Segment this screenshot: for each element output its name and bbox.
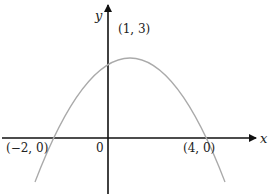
x-axis-label: x <box>260 131 268 146</box>
right-root-label: (4, 0) <box>183 141 215 155</box>
origin-label: 0 <box>96 141 104 155</box>
parabola-curve <box>35 58 225 182</box>
vertex-label: (1, 3) <box>118 22 150 36</box>
y-axis-label: y <box>94 8 103 23</box>
left-root-label: (−2, 0) <box>6 141 48 155</box>
parabola-graph: y x (1, 3) (−2, 0) 0 (4, 0) <box>0 0 269 196</box>
